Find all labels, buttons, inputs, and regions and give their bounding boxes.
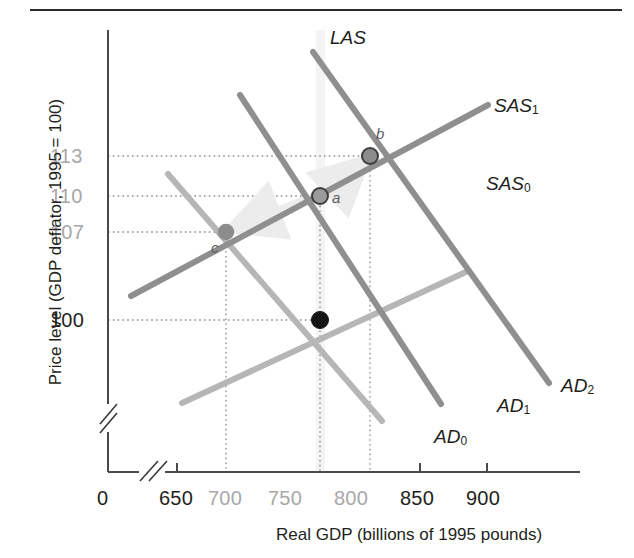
- x-tickmarks: [177, 463, 487, 472]
- x-tick-label-800: 800: [334, 488, 368, 508]
- curve-label-sas1-sub: 1: [532, 103, 539, 117]
- x-tick-label-900: 900: [466, 488, 500, 508]
- y-axis-title: Price level (GDP deflator, 1995 = 100): [46, 82, 66, 402]
- point-a: [312, 188, 328, 204]
- curve-label-ad0-sub: 0: [460, 434, 467, 448]
- gridlines-dotted: [108, 156, 370, 472]
- x-tick-label-850: 850: [400, 488, 434, 508]
- curve-label-las-text: LAS: [330, 27, 366, 48]
- x-axis-title: Real GDP (billions of 1995 pounds): [276, 526, 542, 543]
- curve-sas1: [131, 105, 488, 296]
- transition-arrows: [238, 165, 360, 226]
- curve-label-ad0-text: AD: [434, 426, 460, 447]
- curve-label-ad2: AD2: [561, 376, 594, 396]
- curve-label-sas0-text: SAS: [486, 173, 524, 194]
- curve-label-ad1-text: AD: [497, 395, 523, 416]
- curve-label-las: LAS: [330, 28, 366, 47]
- x-tick-label-650: 650: [159, 488, 193, 508]
- point-b: [362, 148, 378, 164]
- point-initial-equilibrium: [312, 312, 329, 329]
- chart-canvas: [0, 0, 634, 558]
- curve-label-ad1: AD1: [497, 396, 530, 416]
- curve-label-ad2-text: AD: [561, 375, 587, 396]
- curve-label-sas0: SAS0: [486, 174, 531, 194]
- curve-label-sas1: SAS1: [494, 96, 539, 116]
- point-label-b: b: [376, 126, 384, 141]
- x-axis-break-mark: [140, 461, 167, 481]
- point-label-c: c: [211, 240, 219, 255]
- y-axis-break-mark: [100, 404, 117, 433]
- x-tick-label-750: 750: [268, 488, 302, 508]
- curve-label-ad2-sub: 2: [587, 383, 594, 397]
- as-ad-figure: 113 110 107 100 0 650 700 750 800 850 90…: [0, 0, 634, 558]
- x-tick-label-700: 700: [208, 488, 242, 508]
- point-c: [219, 225, 234, 240]
- curve-label-ad0: AD0: [434, 427, 467, 447]
- point-label-a: a: [332, 190, 340, 205]
- curve-label-ad1-sub: 1: [523, 403, 530, 417]
- curve-label-sas0-sub: 0: [524, 181, 531, 195]
- curve-label-sas1-text: SAS: [494, 95, 532, 116]
- x-origin-label: 0: [97, 488, 108, 508]
- curve-ad1: [240, 95, 441, 404]
